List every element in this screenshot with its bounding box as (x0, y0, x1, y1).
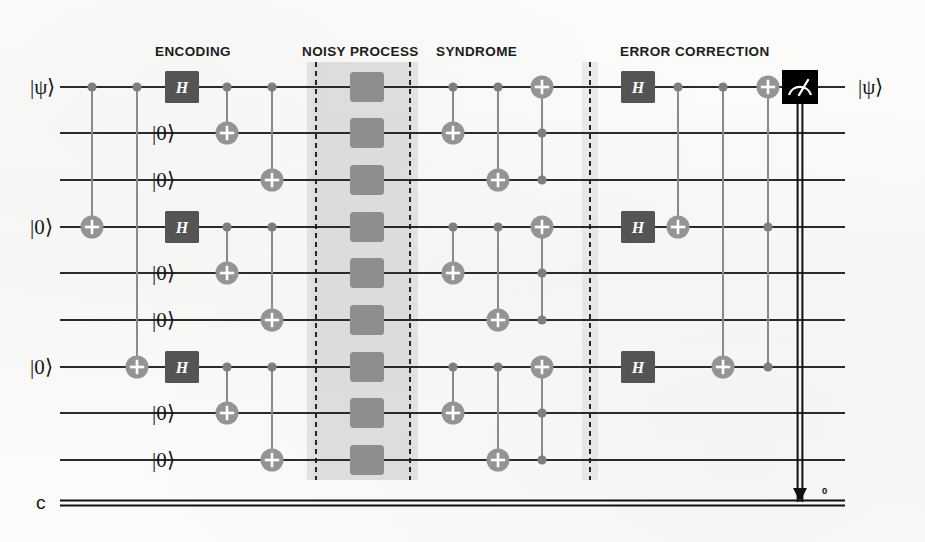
control-dot-syndrome-5[interactable] (493, 362, 502, 371)
section-label-error-correction: ERROR CORRECTION (620, 44, 770, 59)
cnot-encoding-1[interactable] (126, 356, 149, 379)
hadamard-label: H (631, 359, 645, 376)
control-dot-encoding-1[interactable] (132, 82, 141, 91)
control-dot-syndrome-4[interactable] (493, 222, 502, 231)
control-dot-syndrome-toffoli-8-1[interactable] (537, 455, 546, 464)
control-dot-encoding-7[interactable] (222, 362, 231, 371)
input-state-label-w7: |0⟩ (152, 401, 175, 426)
output-state-label: |ψ⟩ (858, 75, 883, 100)
control-dot-encoding-5[interactable] (222, 82, 231, 91)
cnot-encoding-0[interactable] (81, 216, 104, 239)
h-gate-encoding-w6[interactable]: H (165, 351, 199, 383)
control-dot-syndrome-2[interactable] (448, 362, 457, 371)
noise-box-w2[interactable] (350, 165, 384, 195)
h-gate-encoding-w3[interactable]: H (165, 211, 199, 243)
noise-box-w6[interactable] (350, 352, 384, 382)
cnot-syndrome-5[interactable] (487, 449, 510, 472)
control-dot-correction-toffoli-5-0[interactable] (763, 222, 772, 231)
noise-box-w1[interactable] (350, 118, 384, 148)
input-state-label-w1: |0⟩ (152, 121, 175, 146)
toffoli-target-syndrome-8[interactable] (531, 356, 554, 379)
noise-box-w8[interactable] (350, 445, 384, 475)
control-dot-encoding-10[interactable] (267, 362, 276, 371)
h-gate-encoding-w0[interactable]: H (165, 71, 199, 103)
noise-box-w7[interactable] (350, 398, 384, 428)
input-state-label-w6: |0⟩ (30, 355, 53, 380)
cnot-syndrome-3[interactable] (487, 169, 510, 192)
h-gate-correction-w0[interactable]: H (621, 71, 655, 103)
cnot-correction-3[interactable] (667, 216, 690, 239)
cnot-encoding-8[interactable] (261, 169, 284, 192)
control-dot-syndrome-3[interactable] (493, 82, 502, 91)
control-dot-syndrome-toffoli-8-0[interactable] (537, 408, 546, 417)
cnot-encoding-5[interactable] (216, 122, 239, 145)
toffoli-target-syndrome-7[interactable] (531, 216, 554, 239)
h-gate-correction-w6[interactable]: H (621, 351, 655, 383)
cnot-syndrome-4[interactable] (487, 309, 510, 332)
section-label-encoding: ENCODING (155, 44, 231, 59)
hadamard-label: H (175, 79, 189, 96)
cnot-syndrome-1[interactable] (442, 262, 465, 285)
control-dot-syndrome-0[interactable] (448, 82, 457, 91)
classical-bit-index-label: 0 (822, 485, 827, 496)
classical-register-label: c (36, 492, 46, 514)
cnot-encoding-6[interactable] (216, 262, 239, 285)
section-label-noisy-process: NOISY PROCESS (302, 44, 419, 59)
quantum-circuit-figure: HHHHHH ENCODINGNOISY PROCESSSYNDROMEERRO… (0, 0, 925, 542)
cnot-syndrome-0[interactable] (442, 122, 465, 145)
cnot-encoding-7[interactable] (216, 402, 239, 425)
control-dot-encoding-8[interactable] (267, 82, 276, 91)
noise-box-w0[interactable] (350, 72, 384, 102)
input-state-label-w5: |0⟩ (152, 308, 175, 333)
classical-register-wire (60, 500, 845, 505)
cnot-encoding-10[interactable] (261, 449, 284, 472)
control-dot-correction-3[interactable] (673, 82, 682, 91)
input-state-label-w2: |0⟩ (152, 168, 175, 193)
cnot-syndrome-2[interactable] (442, 402, 465, 425)
h-gate-correction-w3[interactable]: H (621, 211, 655, 243)
hadamard-label: H (175, 359, 189, 376)
control-dot-correction-toffoli-5-1[interactable] (763, 362, 772, 371)
measurement-block[interactable] (782, 70, 818, 502)
toffoli-target-correction-5[interactable] (757, 76, 780, 99)
noise-box-w3[interactable] (350, 212, 384, 242)
noise-box-w5[interactable] (350, 305, 384, 335)
hadamard-label: H (175, 219, 189, 236)
control-dot-syndrome-toffoli-7-0[interactable] (537, 268, 546, 277)
section-label-syndrome: SYNDROME (436, 44, 517, 59)
toffoli-target-syndrome-6[interactable] (531, 76, 554, 99)
circuit-canvas: HHHHHH (0, 0, 925, 542)
input-state-label-w8: |0⟩ (152, 448, 175, 473)
control-dot-encoding-6[interactable] (222, 222, 231, 231)
cnot-encoding-9[interactable] (261, 309, 284, 332)
control-dot-syndrome-toffoli-7-1[interactable] (537, 315, 546, 324)
input-state-label-w0: |ψ⟩ (30, 75, 55, 100)
input-state-label-w4: |0⟩ (152, 261, 175, 286)
control-dot-syndrome-toffoli-6-1[interactable] (537, 175, 546, 184)
control-dot-encoding-9[interactable] (267, 222, 276, 231)
control-dot-correction-4[interactable] (718, 82, 727, 91)
control-dot-syndrome-1[interactable] (448, 222, 457, 231)
cnot-correction-4[interactable] (712, 356, 735, 379)
control-dot-syndrome-toffoli-6-0[interactable] (537, 128, 546, 137)
control-dot-encoding-0[interactable] (87, 82, 96, 91)
noise-box-w4[interactable] (350, 258, 384, 288)
hadamard-label: H (631, 219, 645, 236)
input-state-label-w3: |0⟩ (30, 215, 53, 240)
hadamard-label: H (631, 79, 645, 96)
